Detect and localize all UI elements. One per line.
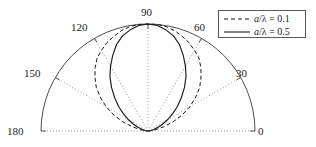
grid-radial-60 [148, 38, 202, 131]
arc-tick-150 [55, 78, 59, 80]
arc-tick-120 [95, 38, 97, 42]
grid-radial-150 [55, 78, 148, 132]
legend-swatch-dashed-line [223, 13, 251, 25]
legend-label-rest-dashed: /λ = 0.1 [259, 13, 290, 24]
axis-label-150: 150 [24, 68, 41, 79]
axis-label-0: 0 [258, 126, 264, 137]
polar-radiation-pattern-figure: 0 30 60 90 120 150 180 a/λ = 0.1 a/λ = 0… [0, 0, 316, 147]
legend-entry-solid: a/λ = 0.5 [219, 25, 307, 38]
axis-label-30: 30 [236, 68, 247, 79]
legend-label-rest-solid: /λ = 0.5 [259, 26, 290, 37]
arc-tick-60 [199, 38, 201, 42]
legend-label-solid: a/λ = 0.5 [254, 26, 290, 38]
legend: a/λ = 0.1 a/λ = 0.5 [218, 10, 306, 38]
grid-radial-lines [55, 24, 240, 131]
legend-label-dashed: a/λ = 0.1 [254, 13, 290, 25]
grid-radial-30 [148, 78, 241, 132]
axis-label-180: 180 [7, 126, 24, 137]
axis-label-90: 90 [141, 7, 152, 18]
grid-radial-120 [95, 38, 149, 131]
polar-grid [41, 24, 255, 131]
axis-label-60: 60 [194, 22, 205, 33]
axis-label-120: 120 [71, 22, 88, 33]
legend-swatch-solid-line [223, 26, 251, 38]
legend-entry-dashed: a/λ = 0.1 [219, 12, 307, 25]
